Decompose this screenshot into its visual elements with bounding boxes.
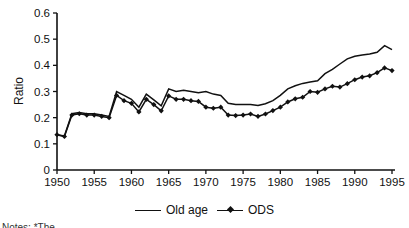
y-tick-label: 0.6 <box>34 7 50 19</box>
x-tick-label: 1960 <box>119 176 145 188</box>
old-age-line <box>57 46 392 136</box>
legend-label-old-age: Old age <box>166 203 208 217</box>
ods-marker <box>352 77 357 82</box>
x-tick-label: 1980 <box>268 176 294 188</box>
ods-marker <box>241 112 246 117</box>
ods-line <box>57 68 392 137</box>
chart-legend: Old age ODS <box>0 202 409 218</box>
ods-marker <box>315 90 320 95</box>
ods-marker <box>389 68 394 73</box>
x-tick-label: 1955 <box>81 176 107 188</box>
y-tick-label: 0.2 <box>34 112 50 124</box>
ods-marker <box>330 84 335 89</box>
ods-marker <box>181 97 186 102</box>
ods-marker <box>188 98 193 103</box>
chart-svg: 00.10.20.30.40.50.6195019551960196519701… <box>0 0 409 200</box>
x-tick-label: 1970 <box>193 176 219 188</box>
clipped-footnote: Notes: *The … <box>2 222 407 228</box>
legend-entry-old-age: Old age <box>135 203 208 217</box>
ods-marker <box>360 75 365 80</box>
y-tick-label: 0.4 <box>34 59 51 71</box>
old-age-line-sample-icon <box>135 210 161 211</box>
y-tick-label: 0 <box>44 164 50 176</box>
ods-marker <box>255 114 260 119</box>
y-axis-title: Ratio <box>12 71 26 111</box>
legend-entry-ods: ODS <box>217 203 274 217</box>
line-chart-figure: 00.10.20.30.40.50.6195019551960196519701… <box>0 0 409 228</box>
ods-marker <box>211 106 216 111</box>
ods-marker <box>62 134 67 139</box>
x-tick-label: 1995 <box>379 176 405 188</box>
ods-marker <box>263 111 268 116</box>
y-tick-label: 0.1 <box>34 138 50 150</box>
ods-line-sample-icon <box>217 210 243 211</box>
ods-marker <box>367 73 372 78</box>
y-tick-label: 0.3 <box>34 86 50 98</box>
ods-marker <box>337 84 342 89</box>
ods-marker <box>322 86 327 91</box>
ods-marker <box>174 97 179 102</box>
ods-marker <box>248 111 253 116</box>
legend-label-ods: ODS <box>248 203 274 217</box>
x-tick-label: 1965 <box>156 176 182 188</box>
x-tick-label: 1950 <box>44 176 70 188</box>
ods-marker <box>270 108 275 113</box>
y-tick-label: 0.5 <box>34 33 50 45</box>
x-tick-label: 1990 <box>342 176 368 188</box>
diamond-marker-icon <box>226 206 233 213</box>
ods-marker <box>293 96 298 101</box>
ods-marker <box>54 132 59 137</box>
ods-marker <box>233 113 238 118</box>
x-tick-label: 1975 <box>230 176 256 188</box>
x-tick-label: 1985 <box>305 176 331 188</box>
ods-marker <box>77 111 82 116</box>
